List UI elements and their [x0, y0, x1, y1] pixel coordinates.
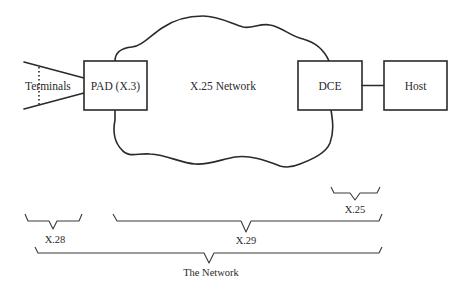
x25-network-diagram: Terminals PAD (X.3) X.25 Network DCE Hos…: [0, 0, 468, 289]
the-network-label: The Network: [183, 267, 239, 278]
x25-bracket: [331, 187, 380, 200]
network-bracket: [35, 247, 382, 263]
x29-bracket: [113, 214, 382, 232]
x25-label: X.25: [345, 204, 366, 215]
terminal-line-top: [24, 62, 84, 78]
terminals-label: Terminals: [25, 80, 71, 92]
network-label: X.25 Network: [190, 80, 256, 92]
pad-label: PAD (X.3): [91, 80, 141, 93]
x29-label: X.29: [236, 235, 257, 246]
host-label: Host: [405, 80, 428, 92]
dce-label: DCE: [319, 80, 342, 92]
x28-label: X.28: [45, 234, 66, 245]
terminal-line-bottom: [24, 93, 84, 109]
x28-bracket: [25, 214, 82, 229]
